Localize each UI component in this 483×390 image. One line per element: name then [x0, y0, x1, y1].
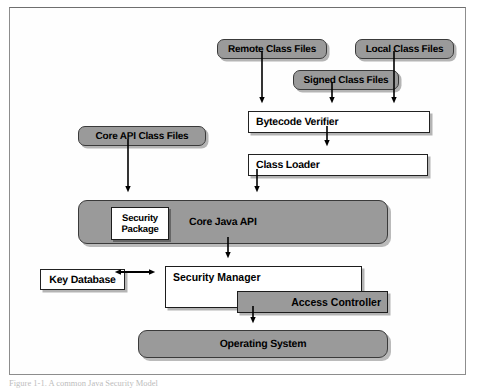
node-core-api-class-files: Core API Class Files — [78, 126, 206, 146]
node-key-database-label: Key Database — [41, 274, 124, 286]
node-class-loader: Class Loader — [248, 154, 428, 176]
node-core-api-class-files-label: Core API Class Files — [79, 131, 205, 142]
node-signed-class-files: Signed Class Files — [293, 70, 399, 90]
diagram-frame: Remote Class Files Local Class Files Sig… — [9, 7, 466, 375]
node-local-class-files: Local Class Files — [355, 39, 454, 59]
figure-page: Remote Class Files Local Class Files Sig… — [0, 0, 483, 390]
node-core-java-api-label: Core Java API — [189, 201, 257, 243]
node-bytecode-verifier-label: Bytecode Verifier — [256, 116, 429, 128]
node-remote-class-files-label: Remote Class Files — [218, 44, 326, 55]
node-key-database: Key Database — [40, 269, 125, 290]
node-security-package-label-line2: Package — [121, 224, 158, 235]
node-remote-class-files: Remote Class Files — [217, 39, 327, 59]
node-signed-class-files-label: Signed Class Files — [294, 75, 398, 86]
node-security-package-label-line1: Security — [122, 213, 158, 224]
node-security-package: Security Package — [111, 207, 169, 240]
node-local-class-files-label: Local Class Files — [356, 44, 453, 55]
figure-caption: Figure 1-1. A common Java Security Model — [9, 378, 469, 389]
node-security-manager-label: Security Manager — [173, 271, 261, 283]
node-bytecode-verifier: Bytecode Verifier — [248, 111, 430, 133]
node-class-loader-label: Class Loader — [256, 159, 427, 171]
node-operating-system-label: Operating System — [139, 338, 387, 350]
node-operating-system: Operating System — [138, 330, 388, 358]
security-manager-group: Security Manager Access Controller — [165, 266, 391, 316]
node-access-controller-label: Access Controller — [291, 296, 381, 308]
node-access-controller: Access Controller — [237, 291, 388, 313]
node-core-java-api: Security Package Core Java API — [78, 200, 388, 244]
